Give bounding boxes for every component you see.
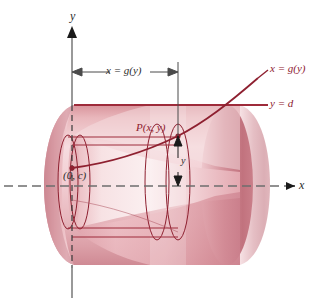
dimension-arrow-right [168,68,178,76]
leader-curve-label [258,70,268,78]
horizontal-dimension-label: x = g(y) [106,65,142,76]
revolution-solid-diagram [0,0,325,306]
point-origin-c-label: (0, c) [63,170,86,181]
dimension-arrow-left [72,68,82,76]
y-axis-label: y [70,10,75,22]
y-axis-arrowhead [67,26,77,38]
x-axis-label: x [299,179,304,191]
line-y-equals-d-label: y = d [270,98,293,109]
vertical-dimension-label: y [181,156,185,166]
x-axis-arrowhead [286,182,295,190]
figure-container: y x x = g(y) y P(x, y) (0, c) x = g(y) y… [0,0,325,306]
point-P-label: P(x, y) [136,122,165,133]
curve-equation-label: x = g(y) [270,63,306,74]
